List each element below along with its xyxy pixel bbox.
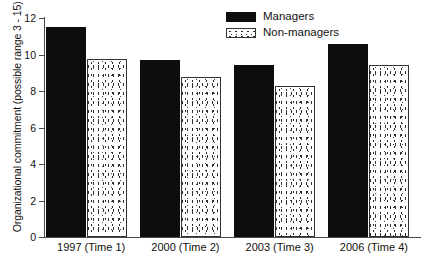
x-axis-line [44, 237, 421, 238]
y-axis-tick-label: 8 [30, 86, 36, 97]
bar-managers-1 [46, 27, 86, 237]
bar-managers-4 [328, 44, 368, 237]
y-axis-tick-label: 0 [30, 232, 36, 243]
legend-label-non-managers: Non-managers [263, 27, 339, 39]
bar-nonmanagers-3 [275, 86, 315, 237]
x-axis-category-labels: 1997 (Time 1)2000 (Time 2)2003 (Time 3)2… [44, 242, 421, 262]
chart-legend: Managers Non-managers [226, 10, 366, 42]
x-axis-label-4: 2006 (Time 4) [327, 242, 421, 253]
legend-item-managers: Managers [226, 10, 366, 24]
bar-managers-2 [140, 60, 180, 237]
y-axis-title: Organizational commitment (possible rang… [12, 2, 23, 232]
bar-nonmanagers-1 [87, 59, 127, 237]
bar-nonmanagers-4 [369, 65, 409, 237]
legend-swatch-non-managers-icon [226, 28, 256, 38]
y-axis-tick-label: 6 [30, 123, 36, 134]
x-axis-label-2: 2000 (Time 2) [138, 242, 232, 253]
bar-chart: Organizational commitment (possible rang… [0, 0, 428, 273]
x-axis-label-1: 1997 (Time 1) [44, 242, 138, 253]
y-axis-tick-label: 2 [30, 196, 36, 207]
legend-label-managers: Managers [263, 11, 314, 23]
legend-item-non-managers: Non-managers [226, 26, 366, 40]
y-axis-tick-label: 12 [24, 13, 36, 24]
bar-nonmanagers-2 [181, 77, 221, 237]
y-axis-tick-label: 10 [24, 50, 36, 61]
bars-layer [44, 18, 421, 237]
y-axis-tick-label: 4 [30, 159, 36, 170]
bar-managers-3 [234, 65, 274, 237]
x-axis-label-3: 2003 (Time 3) [233, 242, 327, 253]
legend-swatch-managers-icon [226, 12, 256, 22]
y-axis-tick-mark [39, 237, 44, 238]
